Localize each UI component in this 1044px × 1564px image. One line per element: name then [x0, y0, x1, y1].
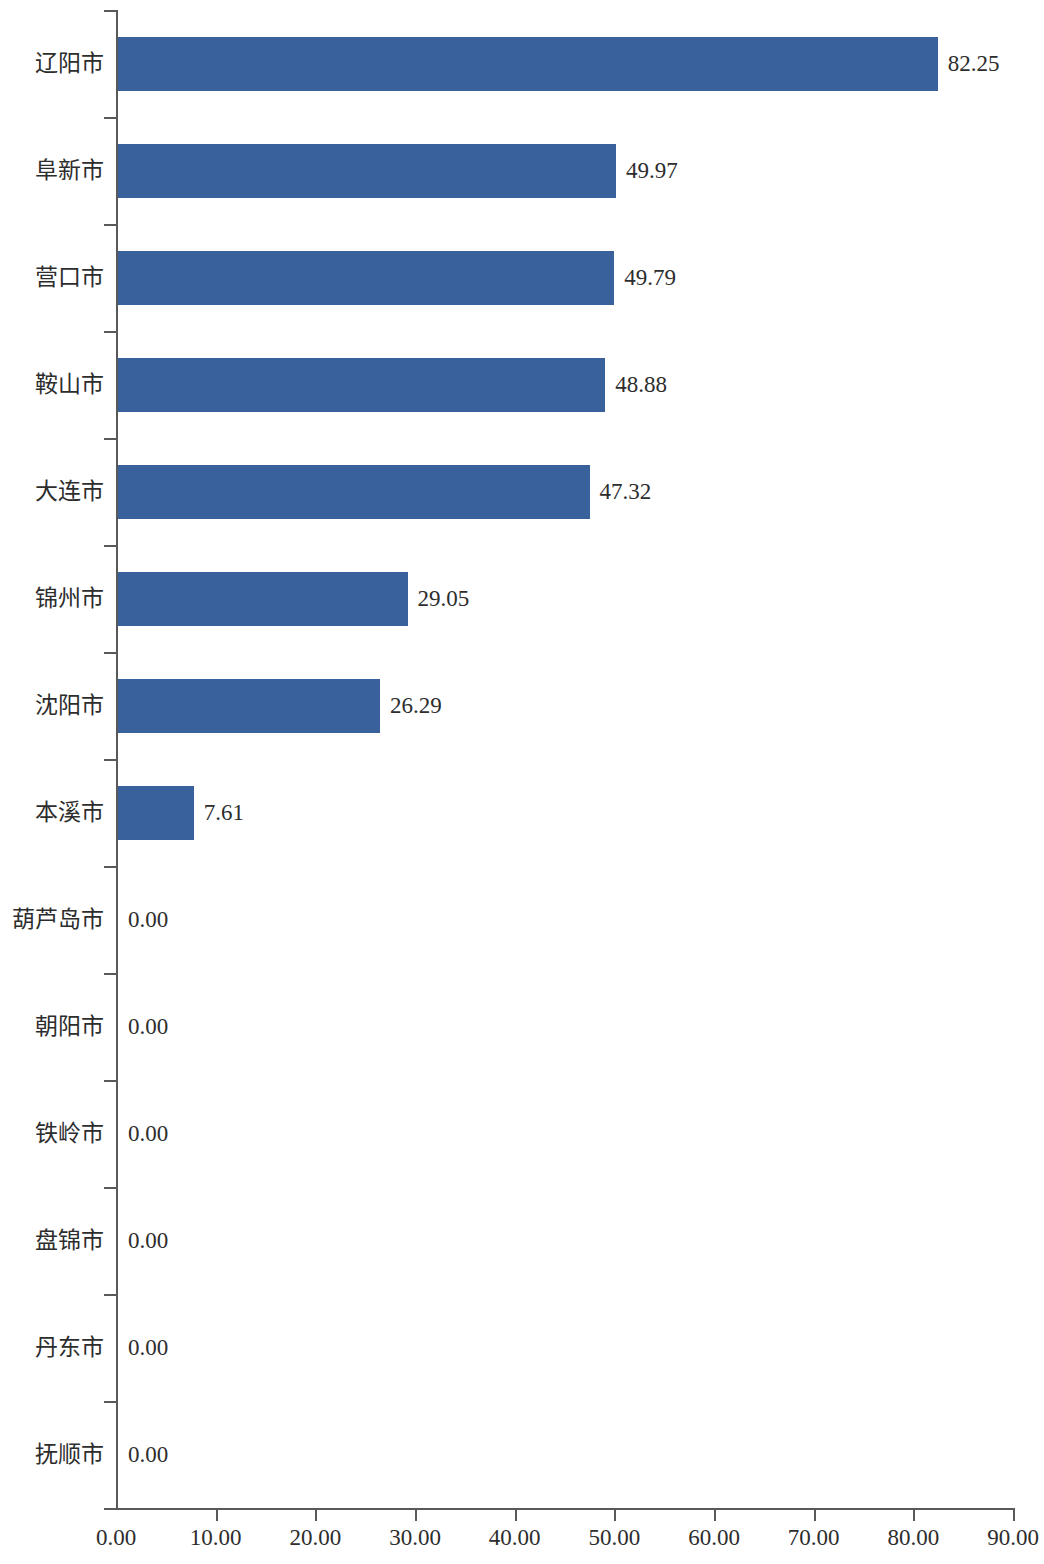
bar-value-label: 82.25: [948, 52, 1000, 75]
category-label: 营口市: [0, 266, 104, 289]
bar-value-label: 26.29: [390, 694, 442, 717]
value-tick: [614, 1510, 616, 1521]
category-tick: [104, 117, 117, 119]
bar-value-label: 47.32: [600, 480, 652, 503]
category-tick: [104, 1508, 117, 1510]
bar[interactable]: [118, 358, 605, 412]
category-tick: [104, 545, 117, 547]
bar-chart: 辽阳市82.25阜新市49.97营口市49.79鞍山市48.88大连市47.32…: [0, 0, 1044, 1564]
category-tick: [104, 1294, 117, 1296]
value-tick: [515, 1510, 517, 1521]
value-axis-line: [116, 1508, 1015, 1510]
bar-value-label: 0.00: [128, 1336, 168, 1359]
bar[interactable]: [118, 786, 194, 840]
category-label: 朝阳市: [0, 1015, 104, 1038]
category-label: 沈阳市: [0, 694, 104, 717]
category-label: 鞍山市: [0, 373, 104, 396]
bar-value-label: 0.00: [128, 1229, 168, 1252]
value-tick-label: 70.00: [788, 1526, 840, 1549]
category-tick: [104, 652, 117, 654]
bar[interactable]: [118, 144, 616, 198]
bar[interactable]: [118, 251, 614, 305]
value-tick-label: 30.00: [389, 1526, 441, 1549]
bar[interactable]: [118, 465, 590, 519]
value-tick-label: 20.00: [289, 1526, 341, 1549]
value-tick-label: 40.00: [489, 1526, 541, 1549]
category-tick: [104, 759, 117, 761]
category-label: 铁岭市: [0, 1122, 104, 1145]
value-tick: [216, 1510, 218, 1521]
category-label: 本溪市: [0, 801, 104, 824]
value-tick: [315, 1510, 317, 1521]
value-tick: [714, 1510, 716, 1521]
bar-value-label: 48.88: [615, 373, 667, 396]
value-tick-label: 80.00: [887, 1526, 939, 1549]
value-tick: [814, 1510, 816, 1521]
value-tick-label: 10.00: [190, 1526, 242, 1549]
category-label: 大连市: [0, 480, 104, 503]
value-tick: [415, 1510, 417, 1521]
category-tick: [104, 438, 117, 440]
bar-value-label: 0.00: [128, 1015, 168, 1038]
bar-value-label: 0.00: [128, 1443, 168, 1466]
value-tick: [1013, 1510, 1015, 1521]
value-tick-label: 60.00: [688, 1526, 740, 1549]
value-tick-label: 0.00: [96, 1526, 136, 1549]
bar[interactable]: [118, 679, 380, 733]
category-label: 辽阳市: [0, 52, 104, 75]
bar-value-label: 49.97: [626, 159, 678, 182]
category-tick: [104, 10, 117, 12]
value-tick-label: 50.00: [588, 1526, 640, 1549]
category-tick: [104, 1187, 117, 1189]
value-tick: [913, 1510, 915, 1521]
category-tick: [104, 973, 117, 975]
category-tick: [104, 1401, 117, 1403]
bar-value-label: 0.00: [128, 1122, 168, 1145]
category-tick: [104, 866, 117, 868]
category-label: 阜新市: [0, 159, 104, 182]
value-tick-label: 90.00: [987, 1526, 1039, 1549]
category-tick: [104, 224, 117, 226]
bar-value-label: 29.05: [418, 587, 470, 610]
category-tick: [104, 331, 117, 333]
bar-value-label: 49.79: [624, 266, 676, 289]
category-label: 盘锦市: [0, 1229, 104, 1252]
bar[interactable]: [118, 37, 938, 91]
category-label: 葫芦岛市: [0, 908, 104, 931]
bar-value-label: 7.61: [204, 801, 244, 824]
category-label: 丹东市: [0, 1336, 104, 1359]
category-label: 抚顺市: [0, 1443, 104, 1466]
bar[interactable]: [118, 572, 408, 626]
bar-value-label: 0.00: [128, 908, 168, 931]
category-label: 锦州市: [0, 587, 104, 610]
category-tick: [104, 1080, 117, 1082]
